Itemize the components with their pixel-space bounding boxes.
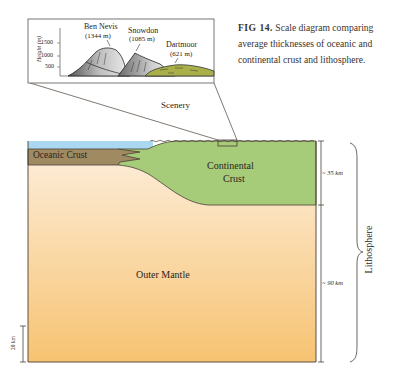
peak-name-ben-nevis: Ben Nevis xyxy=(84,22,118,31)
lithosphere-brace xyxy=(350,143,363,362)
outer-mantle-label: Outer Mantle xyxy=(136,269,190,280)
peak-name-dartmoor: Dartmoor xyxy=(166,40,197,49)
peak-height-snowdon: (1085 m) xyxy=(129,35,155,43)
peak-height-ben-nevis: (1344 m) xyxy=(85,32,111,40)
oceanic-crust-label: Oceanic Crust xyxy=(33,150,87,160)
ocean-water xyxy=(28,141,153,149)
figure-label: FIG 14. xyxy=(238,22,273,33)
lithosphere-label: Lithosphere xyxy=(363,226,374,274)
continental-crust-label-2: Crust xyxy=(223,173,245,184)
peak-name-snowdon: Snowdon xyxy=(128,26,158,35)
scenery-label: Scenery xyxy=(161,100,190,110)
thickness-90km-label: ~ 90 km xyxy=(322,279,343,286)
inset-y-tick-1000: 1000 xyxy=(41,52,53,58)
peak-height-dartmoor: (621 m) xyxy=(170,50,192,58)
thickness-35km-label: ~ 35 km xyxy=(322,169,343,176)
scale-bar-20km-label: 20 km xyxy=(10,336,16,350)
inset-y-tick-1500: 1500 xyxy=(41,39,53,45)
inset-y-tick-500: 500 xyxy=(45,63,54,69)
continental-crust-label-1: Continental xyxy=(207,160,254,171)
